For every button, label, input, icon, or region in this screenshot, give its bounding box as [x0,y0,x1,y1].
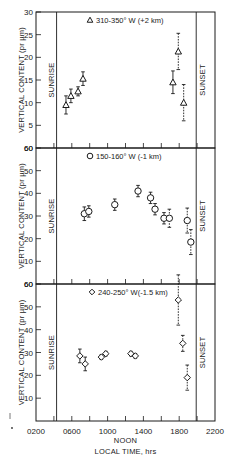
x-tick-label: 1400 [135,427,153,436]
x-tick-label: 1800 [170,427,188,436]
x-tick-label: 0600 [63,427,81,436]
circle-marker-icon [112,201,118,207]
legend-label: 150-160° W (-1 km) [96,152,162,161]
y-tick-label: 60 [24,144,33,153]
diamond-marker-icon [77,353,83,359]
y-axis-label: VERTICAL CONTENT (pr µm) [17,299,26,405]
triangle-marker-icon [68,93,74,99]
triangle-marker-icon [63,102,69,108]
circle-marker-icon [152,206,158,212]
circle-marker-icon [147,195,153,201]
plot-frame [36,148,215,284]
plot-frame [36,12,215,148]
sunrise-label: SUNRISE [47,335,56,370]
x-tick-label: 2200 [206,427,224,436]
circle-marker-icon [166,215,172,221]
legend-label: 310-350° W (+2 km) [96,16,164,25]
y-tick-label: 30 [24,8,33,17]
panel-circle: 10203040506060VERTICAL CONTENT (pr µm)SU… [17,144,215,289]
diamond-marker-icon [82,361,88,367]
panel-triangle: 5101520253060VERTICAL CONTENT (pr µm)SUN… [17,8,215,153]
triangle-marker-icon [87,17,93,22]
sunrise-label: SUNRISE [47,199,56,234]
triangle-marker-icon [170,79,176,85]
y-tick-label: 5 [29,121,34,130]
sunset-label: SUNSET [198,336,207,368]
water-vapor-chart: 5101520253060VERTICAL CONTENT (pr µm)SUN… [0,0,233,462]
x-tick-label: 1000 [99,427,117,436]
sunset-label: SUNSET [198,64,207,96]
x-axis-label: LOCAL TIME, hrs [95,447,157,456]
diamond-marker-icon [184,374,190,380]
panel-diamond: 102030405060VERTICAL CONTENT (pr µm)SUNR… [17,275,215,421]
triangle-marker-icon [180,99,186,105]
legend-label: 240-250° W(-1.5 km) [98,288,168,297]
circle-marker-icon [135,188,141,194]
triangle-marker-icon [175,48,181,54]
x-tick-label: 0200 [27,427,45,436]
circle-marker-icon [188,239,194,245]
triangle-marker-icon [80,75,86,81]
y-axis-label: VERTICAL CONTENT (pr µm) [17,27,26,133]
triangle-marker-icon [75,88,81,94]
diamond-marker-icon [89,289,95,295]
stray-dot [11,427,13,429]
sunset-label: SUNSET [198,200,207,232]
plot-frame [36,284,215,421]
noon-label: NOON [114,436,137,445]
circle-marker-icon [86,208,92,214]
y-axis-label: VERTICAL CONTENT (pr µm) [17,163,26,269]
diamond-marker-icon [175,297,181,303]
y-tick-label: 60 [24,280,33,289]
circle-marker-icon [87,153,93,159]
circle-marker-icon [184,217,190,223]
diamond-marker-icon [180,340,186,346]
sunrise-label: SUNRISE [47,63,56,98]
